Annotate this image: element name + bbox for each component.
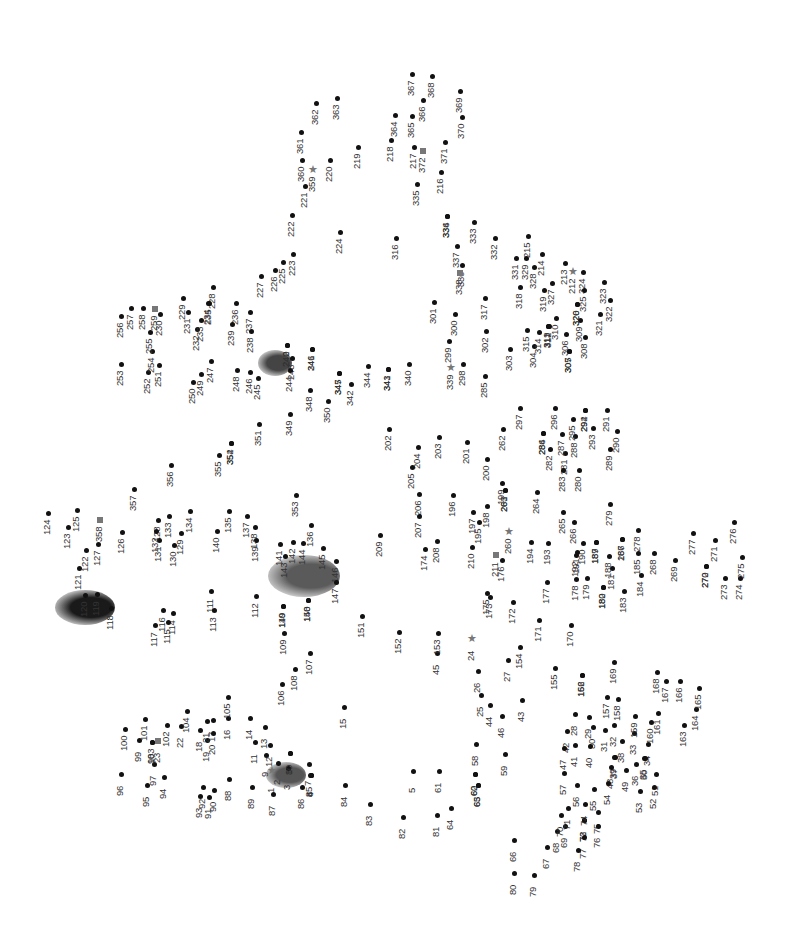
dot-number-label: 322 xyxy=(604,307,614,322)
dot-number-label: 370 xyxy=(456,124,466,139)
puzzle-dot xyxy=(562,746,567,751)
star-marker-icon: ★ xyxy=(568,266,578,277)
puzzle-dot xyxy=(253,525,258,530)
puzzle-dot xyxy=(561,468,566,473)
dot-number-label: 65 xyxy=(472,797,482,807)
puzzle-dot xyxy=(181,296,186,301)
puzzle-dot xyxy=(500,714,505,719)
puzzle-dot xyxy=(310,347,315,352)
puzzle-dot xyxy=(553,406,558,411)
puzzle-dot xyxy=(569,623,574,628)
puzzle-dot xyxy=(207,795,212,800)
puzzle-dot xyxy=(565,729,570,734)
puzzle-dot xyxy=(582,835,587,840)
puzzle-dot xyxy=(387,427,392,432)
dot-number-label: 124 xyxy=(42,520,52,535)
dot-number-label: 22 xyxy=(175,738,185,748)
dot-number-label: 269 xyxy=(669,567,679,582)
dot-number-label: 295 xyxy=(567,426,577,441)
puzzle-dot xyxy=(620,739,625,744)
puzzle-dot xyxy=(439,170,444,175)
dot-number-label: 275 xyxy=(736,564,746,579)
dot-number-label: 171 xyxy=(533,627,543,642)
dot-number-label: 342 xyxy=(345,391,355,406)
puzzle-dot xyxy=(245,514,250,519)
dot-number-label: 253 xyxy=(115,371,125,386)
dot-number-label: 298 xyxy=(457,371,467,386)
puzzle-dot xyxy=(299,130,304,135)
dot-number-label: 5 xyxy=(407,788,417,793)
dot-number-label: 340 xyxy=(403,371,413,386)
dot-number-label: 235 xyxy=(203,310,213,325)
puzzle-dot xyxy=(205,719,210,724)
puzzle-dot xyxy=(704,564,709,569)
dot-number-label: 182 xyxy=(597,594,607,609)
puzzle-dot xyxy=(161,608,166,613)
dot-number-label: 207 xyxy=(413,523,423,538)
dot-number-label: 169 xyxy=(608,669,618,684)
puzzle-dot xyxy=(541,431,546,436)
puzzle-dot xyxy=(697,686,702,691)
puzzle-dot xyxy=(656,711,661,716)
puzzle-dot xyxy=(443,140,448,145)
dot-number-label: 126 xyxy=(116,539,126,554)
puzzle-dot xyxy=(540,252,545,257)
dot-number-label: 343 xyxy=(382,376,392,391)
dot-number-label: 233 xyxy=(195,327,205,342)
puzzle-dot xyxy=(306,598,311,603)
dot-number-label: 231 xyxy=(182,319,192,334)
puzzle-dot xyxy=(608,502,613,507)
puzzle-dot xyxy=(288,751,293,756)
puzzle-dot xyxy=(415,182,420,187)
puzzle-dot xyxy=(472,220,477,225)
puzzle-dot xyxy=(476,669,481,674)
puzzle-dot xyxy=(337,371,342,376)
dot-number-label: 161 xyxy=(652,720,662,735)
dot-number-label: 105 xyxy=(222,704,232,719)
dot-number-label: 194 xyxy=(525,549,535,564)
puzzle-dot xyxy=(608,298,613,303)
puzzle-dot xyxy=(612,660,617,665)
puzzle-dot xyxy=(506,658,511,663)
dot-number-label: 179 xyxy=(581,585,591,600)
puzzle-dot xyxy=(188,509,193,514)
dot-number-label: 362 xyxy=(310,110,320,125)
dot-number-label: 339 xyxy=(445,375,455,390)
dot-number-label: 184 xyxy=(635,582,645,597)
dot-number-label: 76 xyxy=(592,838,602,848)
dot-number-label: 282 xyxy=(544,456,554,471)
puzzle-dot xyxy=(582,288,587,293)
puzzle-dot xyxy=(169,463,174,468)
dot-number-label: 360 xyxy=(296,167,306,182)
dot-number-label: 78 xyxy=(572,862,582,872)
dot-number-label: 177 xyxy=(541,589,551,604)
dot-number-label: 10 xyxy=(284,765,294,775)
puzzle-dot xyxy=(563,261,568,266)
puzzle-dot xyxy=(503,752,508,757)
dot-number-label: 257 xyxy=(125,315,135,330)
puzzle-dot xyxy=(461,362,466,367)
puzzle-dot xyxy=(143,717,148,722)
puzzle-dot xyxy=(401,815,406,820)
dot-number-label: 58 xyxy=(470,756,480,766)
dot-number-label: 53 xyxy=(634,803,644,813)
dot-number-label: 326 xyxy=(571,311,581,326)
puzzle-dot xyxy=(294,493,299,498)
dot-number-label: 247 xyxy=(205,368,215,383)
puzzle-dot xyxy=(620,537,625,542)
dot-number-label: 112 xyxy=(250,603,260,618)
dot-number-label: 52 xyxy=(648,799,658,809)
dot-number-label: 332 xyxy=(489,245,499,260)
dot-number-label: 293 xyxy=(587,435,597,450)
dot-number-label: 151 xyxy=(356,623,366,638)
puzzle-dot xyxy=(150,740,155,745)
dot-number-label: 165 xyxy=(693,695,703,710)
puzzle-dot xyxy=(483,296,488,301)
puzzle-dot xyxy=(532,873,537,878)
puzzle-dot xyxy=(435,813,440,818)
puzzle-dot xyxy=(172,543,177,548)
dot-number-label: 155 xyxy=(549,675,559,690)
puzzle-dot xyxy=(198,728,203,733)
dot-number-label: 239 xyxy=(226,331,236,346)
puzzle-dot xyxy=(471,510,476,515)
